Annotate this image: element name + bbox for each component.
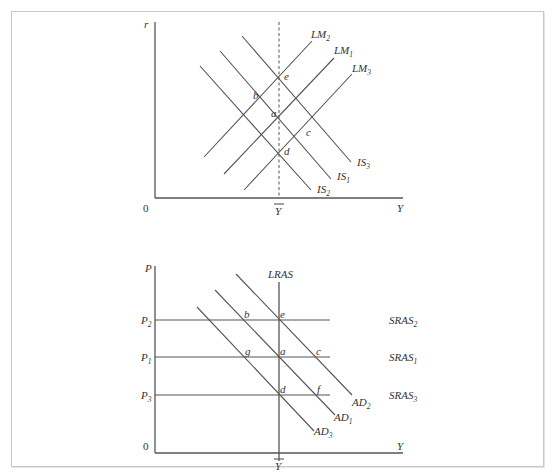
point-c-label-bottom: c xyxy=(316,345,321,357)
lm1-label: LM1 xyxy=(333,44,353,59)
point-c-label: c xyxy=(306,126,311,138)
sras3-label: SRAS3 xyxy=(389,389,417,404)
p1-label: P1 xyxy=(140,351,151,366)
point-e-label-bottom: e xyxy=(280,308,285,320)
economics-diagram: r 0 Y Y LM2 LM1 LM3 IS3 IS1 IS2 e b a c … xyxy=(0,0,553,474)
potential-output-label: Y xyxy=(275,205,283,217)
point-b-label-bottom: b xyxy=(244,308,250,320)
point-a-label-bottom: a xyxy=(280,345,286,357)
is2-label: IS2 xyxy=(316,183,330,198)
is3-label: IS3 xyxy=(356,156,370,171)
point-f-label: f xyxy=(317,383,322,395)
point-g-label: g xyxy=(245,345,251,357)
origin-label: 0 xyxy=(143,202,149,214)
lm2-label: LM2 xyxy=(310,28,330,43)
ad1-label: AD1 xyxy=(333,411,352,426)
ad-as-panel: P 0 Y LRAS Y P2 P1 P3 SRAS2 SRAS1 SRAS3 … xyxy=(140,262,417,472)
p3-label: P3 xyxy=(140,389,152,404)
lras-label: LRAS xyxy=(267,268,294,280)
lm3-label: LM3 xyxy=(351,62,371,77)
ad2-curve xyxy=(236,274,352,395)
p-axis-label: P xyxy=(144,262,152,274)
ad3-label: AD3 xyxy=(313,425,333,440)
is2-curve xyxy=(200,66,311,190)
p2-label: P2 xyxy=(140,314,152,329)
lm3-curve xyxy=(244,74,352,190)
sras2-label: SRAS2 xyxy=(389,314,417,329)
sras1-label: SRAS1 xyxy=(389,351,417,366)
point-b-label: b xyxy=(253,89,259,101)
ad3-curve xyxy=(197,307,314,431)
potential-output-label-bottom: Y xyxy=(275,460,283,472)
is-lm-panel: r 0 Y Y LM2 LM1 LM3 IS3 IS1 IS2 e b a c … xyxy=(143,18,405,217)
point-d-label-bottom: d xyxy=(280,383,286,395)
origin-label-bottom: 0 xyxy=(143,440,149,452)
y-axis-label-bottom: Y xyxy=(397,440,405,452)
ad2-label: AD2 xyxy=(351,396,371,411)
r-axis-label: r xyxy=(144,18,149,30)
point-e-label: e xyxy=(284,70,289,82)
y-axis-label: Y xyxy=(397,202,405,214)
is1-label: IS1 xyxy=(336,170,350,185)
point-a-label: a xyxy=(271,107,277,119)
point-d-label: d xyxy=(284,145,290,157)
